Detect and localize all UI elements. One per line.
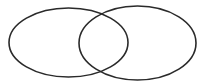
right-set-ellipse	[79, 6, 196, 80]
venn-diagram-svg	[0, 0, 197, 83]
venn-diagram	[0, 0, 197, 83]
left-set-ellipse	[9, 8, 128, 77]
